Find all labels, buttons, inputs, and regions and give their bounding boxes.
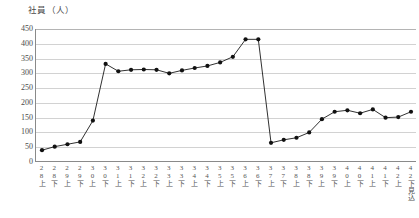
series-line-social-staff — [42, 39, 411, 150]
x-tick-label: 35下 — [228, 164, 235, 187]
series-layer — [36, 29, 417, 162]
x-tick-label: 32下 — [152, 164, 159, 187]
x-tick-label: 29上 — [63, 164, 70, 187]
x-tick-label: 41下 — [381, 164, 388, 187]
x-tick-label: 36下 — [254, 164, 261, 187]
data-point — [154, 68, 158, 72]
data-point — [320, 117, 324, 121]
x-tick-label: 34上 — [190, 164, 197, 187]
x-tick-label: 28上 — [38, 164, 45, 187]
x-tick-label: 33上 — [165, 164, 172, 187]
y-tick-label: 400 — [21, 40, 33, 48]
x-tick-label: 34下 — [203, 164, 210, 187]
series-markers — [40, 37, 413, 152]
data-point — [409, 110, 413, 114]
y-tick-label: 200 — [21, 99, 33, 107]
data-point — [91, 119, 95, 123]
x-tick-label: 38上 — [292, 164, 299, 187]
data-point — [243, 37, 247, 41]
x-tick-label: 30上 — [88, 164, 95, 187]
x-tick-label: 32上 — [139, 164, 146, 187]
y-tick-label: 50 — [25, 143, 33, 151]
x-tick-label: 35上 — [216, 164, 223, 187]
data-point — [345, 108, 349, 112]
x-tick-label: 40下 — [356, 164, 363, 187]
data-point — [167, 71, 171, 75]
data-point — [116, 69, 120, 73]
data-point — [383, 116, 387, 120]
x-tick-label: 39上 — [317, 164, 324, 187]
data-point — [256, 37, 260, 41]
data-point — [396, 115, 400, 119]
y-tick-label: 300 — [21, 69, 33, 77]
x-tick-label: 37上 — [267, 164, 274, 187]
plot-area: 050100150200250300350400450 — [35, 29, 416, 162]
x-tick-label: 30下 — [101, 164, 108, 187]
x-tick-label: 39下 — [330, 164, 337, 187]
y-tick-label: 450 — [21, 25, 33, 33]
data-point — [65, 142, 69, 146]
data-point — [78, 140, 82, 144]
x-tick-label: 31上 — [114, 164, 121, 187]
data-point — [294, 136, 298, 140]
data-point — [358, 111, 362, 115]
x-tick-label: 29下 — [76, 164, 83, 187]
y-tick-label: 100 — [21, 128, 33, 136]
y-tick-label: 0 — [29, 158, 33, 166]
data-point — [218, 60, 222, 64]
x-tick-label: 41上 — [368, 164, 375, 187]
data-point — [193, 66, 197, 70]
y-tick-label: 250 — [21, 84, 33, 92]
data-point — [129, 68, 133, 72]
x-tick-label: 42上 — [394, 164, 401, 187]
data-point — [53, 145, 57, 149]
y-tick-label: 350 — [21, 55, 33, 63]
data-point — [180, 68, 184, 72]
x-tick-label: 38下 — [305, 164, 312, 187]
y-tick-label: 150 — [21, 114, 33, 122]
data-point — [104, 62, 108, 66]
data-point — [231, 55, 235, 59]
x-axis-labels: 28上28下29上29下30上30下31上31下32上32下33上33下34上3… — [35, 164, 416, 216]
data-point — [40, 148, 44, 152]
data-point — [333, 110, 337, 114]
x-tick-label: 33下 — [177, 164, 184, 187]
data-point — [205, 64, 209, 68]
x-tick-label: 37下 — [279, 164, 286, 187]
data-point — [307, 130, 311, 134]
x-tick-label: 31下 — [127, 164, 134, 187]
data-point — [269, 141, 273, 145]
x-tick-label: 36上 — [241, 164, 248, 187]
employee-count-line-chart: 社員（人） 050100150200250300350400450 28上28下… — [0, 0, 419, 218]
data-point — [371, 107, 375, 111]
data-point — [142, 67, 146, 71]
data-point — [282, 138, 286, 142]
x-tick-label: 40上 — [343, 164, 350, 187]
x-tick-label: 28下 — [50, 164, 57, 187]
x-tick-label: 42下見込 — [407, 164, 414, 201]
y-axis-title: 社員（人） — [28, 3, 75, 15]
